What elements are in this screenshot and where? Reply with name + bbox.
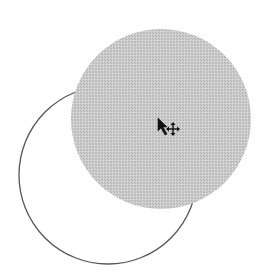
drawing-canvas[interactable]: [0, 0, 265, 279]
filled-circle-shape[interactable]: [71, 29, 251, 209]
